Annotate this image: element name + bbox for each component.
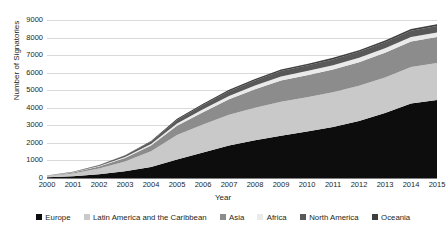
y-axis-tick-label: 7000 (3, 51, 43, 59)
legend-label-asia: Asia (229, 213, 244, 222)
legend-swatch-latin-america-and-the-caribbean (84, 214, 90, 220)
y-axis-tick-label: 4000 (3, 104, 43, 112)
y-axis-tick-label: 2000 (3, 139, 43, 147)
area-series-group (47, 20, 437, 178)
legend-label-north-america: North America (309, 213, 358, 222)
x-axis-line (47, 178, 437, 179)
chart-legend: EuropeLatin America and the CaribbeanAsi… (0, 210, 446, 224)
y-axis-tick-label: 9000 (3, 16, 43, 24)
legend-item-europe[interactable]: Europe (36, 213, 71, 222)
y-axis-tick-label: 3000 (3, 121, 43, 129)
legend-swatch-asia (220, 214, 226, 220)
legend-item-latin-america-and-the-caribbean[interactable]: Latin America and the Caribbean (84, 213, 207, 222)
x-axis-tick-labels: 2000200120022003200420052006200720082009… (47, 180, 437, 192)
legend-label-africa: Africa (267, 213, 287, 222)
legend-label-europe: Europe (45, 213, 70, 222)
legend-item-africa[interactable]: Africa (257, 213, 286, 222)
y-axis-tick-label: 8000 (3, 34, 43, 42)
stacked-area-chart: Number of Signatories 010002000300040005… (0, 0, 446, 235)
legend-label-oceania: Oceania (381, 213, 410, 222)
legend-item-north-america[interactable]: North America (300, 213, 359, 222)
legend-item-asia[interactable]: Asia (220, 213, 245, 222)
plot-area (47, 20, 437, 178)
x-axis-title: Year (0, 193, 446, 202)
legend-swatch-africa (257, 214, 263, 220)
x-axis-tick-label: 2015 (420, 180, 446, 190)
y-axis-tick-label: 6000 (3, 69, 43, 77)
y-axis-tick-label: 5000 (3, 86, 43, 94)
legend-swatch-oceania (372, 214, 378, 220)
legend-item-oceania[interactable]: Oceania (372, 213, 411, 222)
y-axis-tick-label: 1000 (3, 156, 43, 164)
legend-label-latin-america-and-the-caribbean: Latin America and the Caribbean (93, 213, 207, 222)
legend-swatch-europe (36, 214, 42, 220)
legend-divider (0, 204, 446, 205)
legend-swatch-north-america (300, 214, 306, 220)
